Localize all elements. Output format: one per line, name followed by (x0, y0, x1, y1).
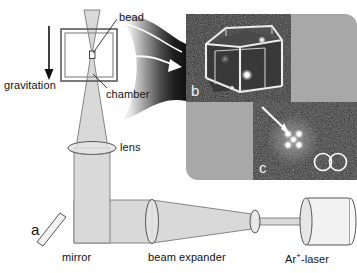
beam-expanded-horizontal (152, 200, 252, 243)
cube-glint-top (258, 36, 266, 44)
mirror-element (37, 213, 66, 246)
label-mirror: mirror (62, 251, 91, 263)
figure-canvas (0, 0, 357, 273)
cube-glint-lower (229, 85, 235, 91)
beam-converging-cone (76, 54, 108, 148)
label-gravitation: gravitation (4, 79, 56, 91)
beam-laser-to-expander (258, 218, 306, 225)
laser-suffix: -laser (301, 253, 329, 265)
beam-diverging-cone (84, 10, 100, 54)
panel-letter-b: b (191, 82, 199, 99)
figure-root: gravitation bead chamber lens mirror bea… (0, 0, 357, 273)
panel-b-photo (186, 14, 291, 102)
bead-element (90, 51, 96, 59)
gravitation-arrow (45, 26, 54, 80)
lens-element (68, 142, 116, 155)
label-ar-laser: Ar+-laser (285, 251, 329, 265)
beam-expander-lens (146, 200, 159, 244)
magnifier-swoosh (118, 14, 186, 120)
laser-prefix: Ar (285, 253, 296, 265)
label-lens: lens (120, 141, 141, 153)
glass-cube-photo (206, 26, 282, 92)
beam-vertical-to-lens (74, 148, 110, 243)
panel-letter-a: a (31, 221, 39, 238)
laser-body (300, 198, 356, 245)
label-chamber: chamber (106, 88, 150, 100)
label-beam-expander: beam expander (148, 251, 226, 263)
panel-c-photo (253, 102, 357, 180)
label-bead: bead (119, 11, 144, 23)
panel-letter-c: c (259, 159, 267, 176)
beam-expander-small-lens (250, 210, 260, 233)
